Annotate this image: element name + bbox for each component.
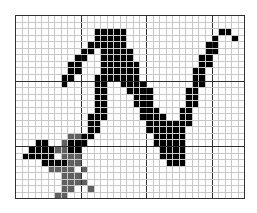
- minor-grid-line: [15, 54, 244, 55]
- minor-grid-line: [15, 35, 244, 36]
- minor-grid-line: [15, 166, 244, 167]
- minor-grid-line: [15, 185, 244, 186]
- pixel-canvas[interactable]: [15, 15, 244, 198]
- minor-grid-line: [15, 179, 244, 180]
- minor-grid-line: [15, 172, 244, 173]
- minor-grid-line: [15, 87, 244, 88]
- minor-grid-line: [15, 61, 244, 62]
- major-grid-line: [15, 146, 244, 147]
- minor-grid-line: [15, 107, 244, 108]
- minor-grid-line: [15, 48, 244, 49]
- minor-grid-line: [15, 139, 244, 140]
- major-grid-line: [15, 15, 244, 16]
- minor-grid-line: [15, 120, 244, 121]
- minor-grid-line: [15, 113, 244, 114]
- minor-grid-line: [15, 126, 244, 127]
- minor-grid-line: [15, 100, 244, 101]
- minor-grid-line: [15, 28, 244, 29]
- minor-grid-line: [15, 198, 244, 199]
- major-grid-line: [15, 81, 244, 82]
- minor-grid-line: [15, 159, 244, 160]
- minor-grid-line: [15, 192, 244, 193]
- minor-grid-line: [15, 94, 244, 95]
- minor-grid-line: [15, 22, 244, 23]
- minor-grid-line: [15, 67, 244, 68]
- minor-grid-line: [15, 41, 244, 42]
- minor-grid-line: [15, 74, 244, 75]
- minor-grid-line: [15, 133, 244, 134]
- minor-grid-line: [15, 153, 244, 154]
